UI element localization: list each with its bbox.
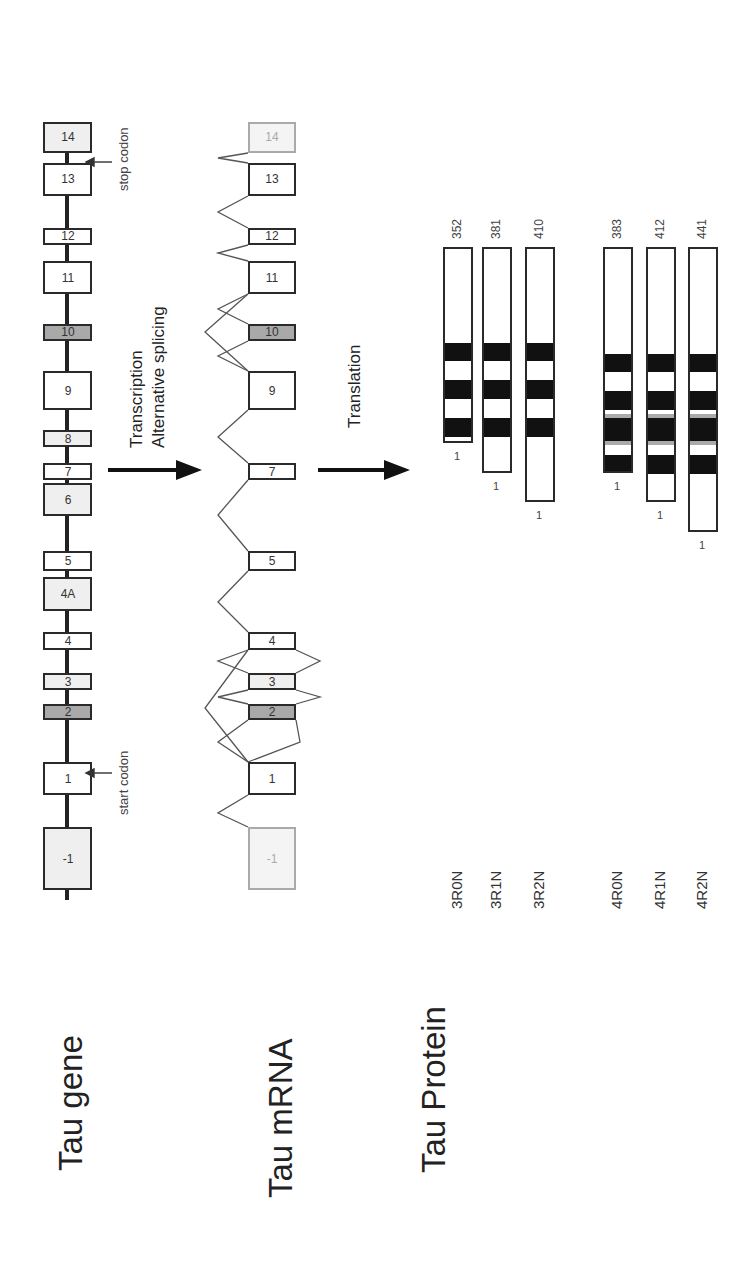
mrna-exon: 5 (248, 551, 296, 571)
repeat-r1 (445, 418, 471, 437)
mrna-exon-label: 7 (269, 465, 276, 479)
isoform-length: 381 (489, 219, 503, 239)
splice-connectors (0, 0, 736, 1263)
mrna-exon: 10 (248, 324, 296, 341)
repeat-r3 (648, 391, 674, 410)
mrna-exon: 13 (248, 163, 296, 196)
isoform-length: 410 (532, 219, 546, 239)
repeat-r2 (605, 418, 631, 441)
isoform-name: 4R1N (651, 871, 668, 909)
mrna-exon-label: 10 (265, 325, 278, 339)
repeat-r1 (648, 455, 674, 474)
repeat-r1 (527, 418, 553, 437)
mrna-exon-label: 12 (265, 229, 278, 243)
repeat-r2-edge (648, 414, 674, 418)
repeat-r4 (690, 354, 716, 372)
repeat-r3 (605, 391, 631, 410)
mrna-exon: 1 (248, 762, 296, 795)
isoform-name: 3R2N (530, 871, 547, 909)
mrna-exon-label: 5 (269, 554, 276, 568)
repeat-r2 (648, 418, 674, 441)
repeat-r2-edge (690, 441, 716, 445)
repeat-r2-edge (605, 441, 631, 445)
isoform-start-residue: 1 (493, 480, 499, 492)
mrna-exon-label: 1 (269, 772, 276, 786)
mrna-exon-label: 9 (269, 384, 276, 398)
isoform-name: 4R2N (693, 871, 710, 909)
isoform-name: 3R0N (448, 871, 465, 909)
repeat-r4 (605, 354, 631, 372)
tau-isoform-diagram: Tau gene Tau mRNA Tau Protein -112344A56… (0, 0, 736, 1263)
mrna-exon-label: 13 (265, 173, 278, 187)
isoform-bar-4r0n (603, 247, 633, 473)
mrna-exon-label: 3 (269, 675, 276, 689)
repeat-r1 (690, 455, 716, 474)
isoform-start-residue: 1 (454, 450, 460, 462)
repeat-r4 (484, 343, 510, 361)
mrna-exon-label: 14 (265, 131, 278, 145)
isoform-bar-3r0n (443, 247, 473, 443)
isoform-length: 441 (695, 219, 709, 239)
repeat-r3 (527, 380, 553, 399)
mrna-exon: 12 (248, 228, 296, 245)
mrna-exon: 3 (248, 673, 296, 690)
isoform-start-residue: 1 (614, 480, 620, 492)
isoform-bar-4r1n (646, 247, 676, 502)
isoform-start-residue: 1 (699, 539, 705, 551)
mrna-exon: 9 (248, 371, 296, 410)
isoform-bar-3r2n (525, 247, 555, 502)
isoform-name: 3R1N (487, 871, 504, 909)
mrna-exon-label: 11 (266, 271, 278, 285)
mrna-exon-label: -1 (267, 852, 278, 866)
mrna-exon: 7 (248, 463, 296, 480)
mrna-exon: 4 (248, 632, 296, 650)
mrna-exon: -1 (248, 827, 296, 890)
repeat-r4 (527, 343, 553, 361)
mrna-exon-label: 2 (269, 705, 276, 719)
repeat-r2-edge (690, 414, 716, 418)
mrna-exon: 11 (248, 261, 296, 294)
repeat-r1 (605, 455, 631, 473)
mrna-exon-label: 4 (269, 634, 276, 648)
isoform-length: 383 (610, 219, 624, 239)
isoform-bar-3r1n (482, 247, 512, 473)
repeat-r2-edge (605, 414, 631, 418)
repeat-r1 (484, 418, 510, 437)
repeat-r2-edge (648, 441, 674, 445)
isoform-length: 352 (450, 219, 464, 239)
isoform-bar-4r2n (688, 247, 718, 532)
mrna-exon: 14 (248, 122, 296, 153)
repeat-r4 (648, 354, 674, 372)
repeat-r4 (445, 343, 471, 361)
repeat-r2 (690, 418, 716, 441)
isoform-name: 4R0N (608, 871, 625, 909)
mrna-exon: 2 (248, 704, 296, 720)
repeat-r3 (445, 380, 471, 399)
repeat-r3 (690, 391, 716, 410)
isoform-start-residue: 1 (536, 509, 542, 521)
isoform-length: 412 (653, 219, 667, 239)
isoform-start-residue: 1 (657, 509, 663, 521)
repeat-r3 (484, 380, 510, 399)
